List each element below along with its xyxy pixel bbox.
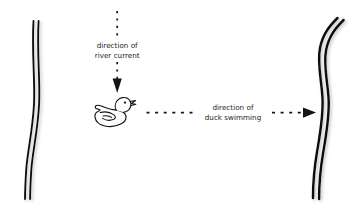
river-current-label-line1: direction of — [97, 41, 138, 50]
duck-swimming-label: direction of duck swimming — [205, 103, 262, 122]
duck-head — [115, 97, 131, 112]
left-riverbank — [25, 21, 39, 199]
river-duck-diagram: direction of river current — [0, 0, 363, 217]
river-current-label-line2: river current — [95, 51, 140, 60]
duck — [95, 97, 136, 126]
duck-swimming-label-line2: duck swimming — [205, 113, 262, 122]
diagram-canvas: direction of river current — [0, 0, 363, 217]
right-riverbank — [313, 18, 344, 199]
duck-eye — [124, 101, 126, 103]
duck-swimming-arrowhead — [303, 107, 316, 117]
river-current-arrowhead — [113, 79, 122, 94]
duck-swimming-label-line1: direction of — [213, 103, 254, 112]
river-current-label: direction of river current — [95, 41, 140, 60]
